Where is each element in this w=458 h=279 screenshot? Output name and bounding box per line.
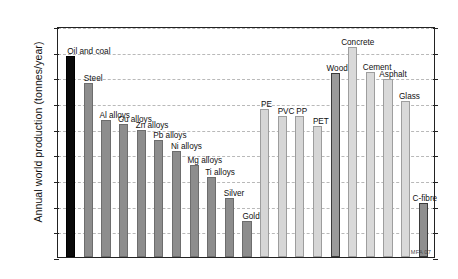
y-axis-tick [54, 182, 59, 183]
bar-label-mg-alloys: Mg alloys [188, 156, 223, 165]
bar-cement [366, 72, 375, 257]
bar-pet [313, 126, 322, 257]
bar-label-pb-alloys: Pb alloys [153, 131, 186, 140]
y-axis-title: Annual world production (tonnes/year) [32, 17, 44, 247]
bar-pvc [278, 116, 287, 257]
y-axis-tick [54, 233, 59, 234]
bar-label-concrete: Concrete [341, 38, 374, 47]
bar-asphalt [383, 79, 392, 257]
y-axis-tick [54, 131, 59, 132]
bar-glass [401, 101, 410, 257]
gridline [58, 156, 434, 157]
bar-label-asphalt: Asphalt [379, 70, 406, 79]
bar-pp [295, 116, 304, 257]
bar-label-glass: Glass [399, 92, 420, 101]
bar-silver [225, 198, 234, 257]
gridline [58, 79, 434, 80]
bar-label-wood: Wood [327, 64, 348, 73]
bar-label-ni-alloys: Ni alloys [171, 142, 202, 151]
bar-cu-alloys [119, 124, 128, 257]
bar-label-ti-alloys: Ti alloys [205, 168, 235, 177]
y-axis-tick-right [433, 54, 438, 55]
bar-label-gold: Gold [242, 212, 259, 221]
y-axis-tick [54, 79, 59, 80]
plot-area: 10210310410510610710810910101011 Oil and… [57, 27, 435, 258]
y-axis-tick-right [433, 233, 438, 234]
bar-label-zn-alloys: Zn alloys [136, 121, 169, 130]
bar-al-alloys [101, 120, 110, 257]
bar-label-c-fibre: C-fibre [413, 194, 438, 203]
bar-ti-alloys [207, 177, 216, 257]
bar-label-pp: PP [296, 107, 307, 116]
bar-ni-alloys [172, 151, 181, 257]
gridline [58, 131, 434, 132]
bar-pb-alloys [154, 140, 163, 257]
bar-steel [84, 83, 93, 257]
y-axis-tick [54, 28, 59, 29]
y-axis-tick-right [433, 28, 438, 29]
bar-wood [331, 73, 340, 257]
bar-label-oil-and-coal: Oil and coal [67, 47, 110, 56]
bar-label-pe: PE [261, 100, 272, 109]
y-axis-tick [54, 105, 59, 106]
gridline [58, 28, 434, 29]
y-axis-tick-right [433, 208, 438, 209]
y-axis-tick-right [433, 156, 438, 157]
bar-mg-alloys [190, 165, 199, 257]
gridline [58, 105, 434, 106]
y-axis-tick-right [433, 182, 438, 183]
y-axis-tick [54, 259, 59, 260]
bar-label-steel: Steel [84, 74, 103, 83]
watermark: MFA 07 [411, 249, 431, 255]
bar-oil-and-coal [66, 56, 75, 257]
chart-figure: Annual world production (tonnes/year) 10… [0, 0, 458, 279]
bar-label-silver: Silver [224, 189, 244, 198]
y-axis-tick-right [433, 105, 438, 106]
y-axis-tick-right [433, 131, 438, 132]
gridline [58, 182, 434, 183]
bar-pe [260, 109, 269, 257]
y-axis-tick [54, 54, 59, 55]
bar-label-pet: PET [313, 117, 329, 126]
bar-zn-alloys [137, 130, 146, 257]
gridline [58, 54, 434, 55]
bar-gold [242, 221, 251, 257]
bar-concrete [348, 47, 357, 257]
bar-label-pvc: PVC [278, 107, 295, 116]
gridline [58, 208, 434, 209]
y-axis-tick [54, 156, 59, 157]
y-axis-tick [54, 208, 59, 209]
y-axis-tick-right [433, 79, 438, 80]
y-axis-tick-right [433, 259, 438, 260]
